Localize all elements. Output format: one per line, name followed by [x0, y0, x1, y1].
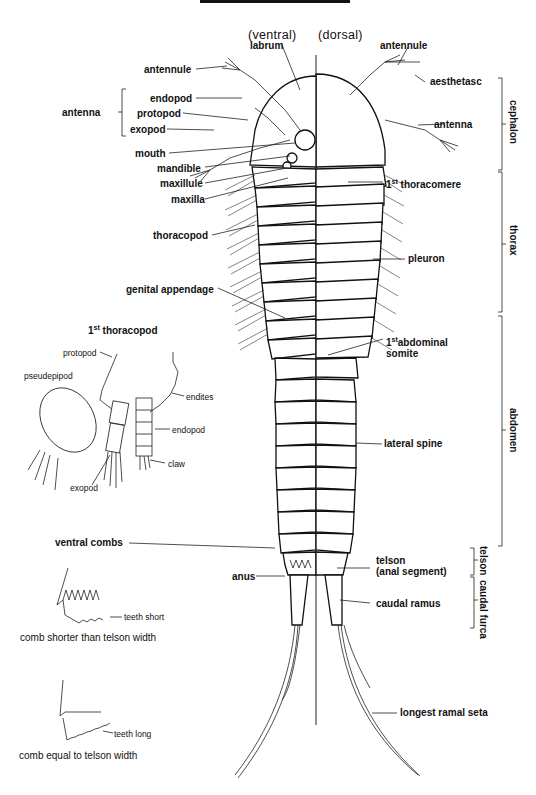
telson-ventral [283, 552, 316, 575]
region-caudal-furca: caudal furca [478, 580, 489, 639]
region-abdomen: abdomen [508, 408, 519, 452]
head-ventral [250, 76, 316, 167]
label-thoracomere: 1st thoracomere [386, 176, 461, 190]
label-antenna-right: antenna [434, 119, 472, 130]
labrum-shape [295, 130, 315, 150]
inset-label-protopod: protopod [63, 348, 97, 359]
label-antenna-group: antenna [62, 107, 100, 118]
label-antennule-right: antennule [380, 40, 427, 51]
label-exopod: exopod [130, 124, 166, 135]
label-mouth: mouth [135, 148, 166, 159]
label-ventral-combs: ventral combs [55, 537, 123, 548]
label-telson: telson(anal segment) [376, 555, 447, 577]
label-maxilla: maxilla [171, 194, 205, 205]
caudal-ramus-left [290, 575, 308, 625]
label-longest-ramal-seta: longest ramal seta [400, 707, 488, 718]
label-abdominal-somite: 1stabdominalsomite [386, 334, 448, 359]
label-aesthetasc: aesthetasc [430, 76, 482, 87]
inset-caption-comb-shorter: comb shorter than telson width [20, 632, 156, 643]
inset-label-endites: endites [186, 392, 213, 403]
inset-label-teeth-long: teeth long [114, 729, 151, 740]
inset-caption-comb-equal: comb equal to telson width [19, 750, 137, 761]
region-thorax: thorax [508, 225, 519, 256]
region-cephalon: cephalon [508, 100, 519, 144]
label-anus: anus [232, 571, 255, 582]
cropped-title-remnant [200, 0, 350, 3]
label-genital-appendage: genital appendage [126, 284, 214, 295]
label-mandible: mandible [157, 163, 201, 174]
inset-comb-short [57, 568, 122, 623]
thorax-segments [252, 167, 386, 359]
region-telson: telson [478, 546, 489, 575]
abdomen-segments [275, 358, 358, 553]
label-lateral-spine: lateral spine [384, 438, 442, 449]
label-caudal-ramus: caudal ramus [376, 598, 440, 609]
label-labrum: labrum [250, 40, 283, 51]
inset-comb-long [60, 680, 113, 740]
telson-dorsal [316, 552, 348, 575]
head-dorsal [316, 74, 385, 167]
inset-label-claw: claw [168, 459, 185, 470]
inset-label-endopod: endopod [172, 425, 205, 436]
view-label-dorsal: (dorsal) [318, 30, 363, 41]
label-antennule-left: antennule [144, 64, 191, 75]
inset-label-exopod: exopod [70, 483, 98, 494]
caudal-ramus-right [325, 575, 342, 625]
inset-label-teeth-short: teeth short [124, 612, 164, 623]
inset-label-pseudepipod: pseudepipod [24, 371, 73, 382]
inset-thoracopod-title: 1st thoracopod [88, 322, 158, 336]
label-maxillule: maxillule [160, 178, 203, 189]
label-endopod: endopod [150, 93, 192, 104]
label-pleuron: pleuron [408, 253, 445, 264]
label-protopod: protopod [137, 108, 181, 119]
label-thoracopod: thoracopod [153, 230, 208, 241]
